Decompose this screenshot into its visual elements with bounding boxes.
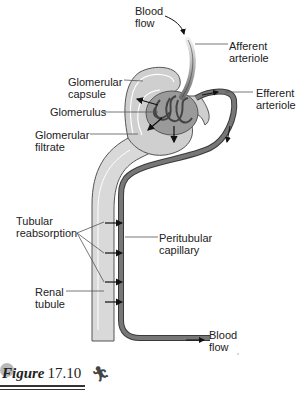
- label-glomerulus: Glomerulus: [50, 106, 106, 118]
- label-tubular-reabsorption: Tubular reabsorption: [16, 215, 77, 239]
- label-glomerular-capsule: Glomerular capsule: [68, 76, 122, 100]
- figure-caption: Figure17.10: [2, 364, 81, 382]
- figure-number: 17.10: [48, 365, 82, 381]
- label-renal-tubule: Renal tubule: [35, 286, 65, 310]
- glomerulus: [146, 91, 198, 135]
- figure-person-icon: 🏃︎: [91, 365, 110, 383]
- label-peritubular-capillary: Peritubular capillary: [159, 232, 212, 256]
- label-blood-flow-out: Blood flow: [209, 329, 237, 353]
- renal-tubule: [92, 130, 160, 341]
- label-afferent-arteriole: Afferent arteriole: [229, 40, 269, 64]
- figure-underline: [0, 385, 85, 387]
- figure-word: Figure: [2, 365, 45, 381]
- label-blood-flow-in: Blood flow: [135, 5, 163, 29]
- flow-arrows: [165, 16, 230, 340]
- figure-underline-thin: [0, 389, 85, 390]
- label-glomerular-filtrate: Glomerular filtrate: [35, 129, 89, 153]
- label-efferent-arteriole: Efferent arteriole: [256, 87, 296, 111]
